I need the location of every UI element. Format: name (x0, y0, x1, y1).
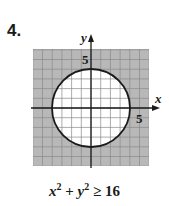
y-axis-arrow-icon (88, 34, 94, 42)
caption-plus: + (62, 183, 78, 199)
inequality-caption: x2 + y2 ≥ 16 (0, 181, 169, 200)
caption-x: x (49, 183, 57, 199)
y-tick-label: 5 (82, 52, 89, 67)
y-axis-label: y (79, 30, 87, 45)
caption-relation: ≥ 16 (89, 183, 120, 199)
graph: y x 5 5 (0, 0, 169, 206)
x-tick-label: 5 (136, 111, 143, 126)
x-axis-label: x (154, 91, 162, 106)
